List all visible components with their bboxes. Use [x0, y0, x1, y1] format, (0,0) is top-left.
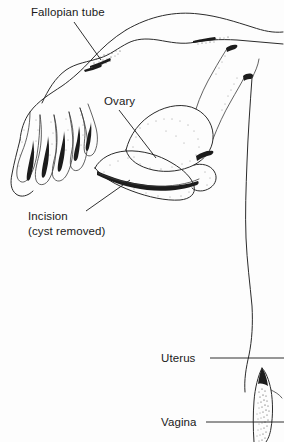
label-incision: Incision [28, 210, 68, 222]
label-incision-detail: (cyst removed) [28, 225, 106, 237]
label-vagina: Vagina [161, 416, 197, 428]
label-fallopian-tube: Fallopian tube [31, 6, 105, 18]
anatomical-figure: Fallopian tube Ovary Incision (cyst remo… [0, 0, 284, 442]
label-ovary: Ovary [104, 95, 135, 107]
label-uterus: Uterus [161, 352, 196, 364]
anatomy-illustration-canvas: Fallopian tube Ovary Incision (cyst remo… [0, 0, 284, 442]
